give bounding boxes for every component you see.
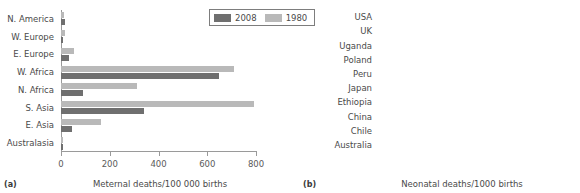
x-tick [110, 152, 111, 156]
category-label: Ethiopia [337, 97, 372, 107]
panel-tag-a: (a) [4, 180, 17, 189]
category-label: N. America [7, 14, 54, 24]
category-label: Peru [353, 69, 372, 79]
x-tick [61, 152, 62, 156]
category-label: USA [354, 12, 372, 22]
category-label: China [348, 112, 372, 122]
legend-label-2008: 2008 [235, 13, 257, 23]
category-label: Uganda [339, 41, 372, 51]
legend-label-1980: 1980 [286, 13, 308, 23]
panel-b-neonatal-deaths: 010203040 (b) Neonatal deaths/1000 birth… [290, 0, 580, 193]
category-label: Chile [351, 126, 372, 136]
x-tick [207, 152, 208, 156]
legend-item-2008: 2008 [214, 13, 257, 23]
plot-area-a: 0200400600800 [61, 10, 257, 152]
bar-2008 [61, 37, 63, 43]
legend-swatch-2008 [214, 14, 231, 22]
category-label: Poland [344, 55, 372, 65]
category-label: Australia [334, 140, 372, 150]
category-label: Australasia [7, 138, 54, 148]
bar-1980 [61, 12, 64, 18]
legend-item-1980: 1980 [265, 13, 308, 23]
bar-2008 [61, 55, 69, 61]
panel-tag-b: (b) [303, 180, 316, 189]
legend-swatch-1980 [265, 14, 282, 22]
category-label: W. Europe [11, 32, 54, 42]
bar-1980 [61, 137, 63, 143]
figure-two-panel-bar-charts: 0200400600800 2008 1980 (a) Meternal dea… [0, 0, 580, 193]
x-axis-title-b: Neonatal deaths/1000 births [401, 179, 523, 189]
bar-2008 [61, 73, 219, 79]
panel-a-maternal-deaths: 0200400600800 2008 1980 (a) Meternal dea… [0, 0, 290, 193]
x-tick-label: 400 [150, 159, 166, 169]
bar-2008 [61, 19, 65, 25]
bar-1980 [61, 101, 254, 107]
category-label: UK [360, 26, 372, 36]
bar-2008 [61, 144, 63, 150]
bar-2008 [61, 90, 83, 96]
bar-2008 [61, 126, 72, 132]
x-tick [256, 152, 257, 156]
bar-1980 [61, 48, 74, 54]
bar-1980 [61, 30, 65, 36]
category-label: Japan [348, 83, 372, 93]
bar-2008 [61, 108, 144, 114]
x-tick-label: 200 [102, 159, 118, 169]
bar-1980 [61, 83, 137, 89]
category-label: S. Asia [25, 103, 54, 113]
category-label: N. Africa [18, 85, 54, 95]
legend: 2008 1980 [209, 9, 315, 26]
category-label: E. Europe [13, 49, 54, 59]
x-tick-label: 0 [58, 159, 63, 169]
bar-1980 [61, 119, 101, 125]
bar-1980 [61, 66, 234, 72]
x-axis-title-a: Meternal deaths/100 000 births [93, 179, 227, 189]
x-tick-label: 600 [199, 159, 215, 169]
x-tick-label: 800 [248, 159, 264, 169]
x-tick [159, 152, 160, 156]
category-label: E. Asia [25, 120, 54, 130]
category-label: W. Africa [17, 67, 54, 77]
